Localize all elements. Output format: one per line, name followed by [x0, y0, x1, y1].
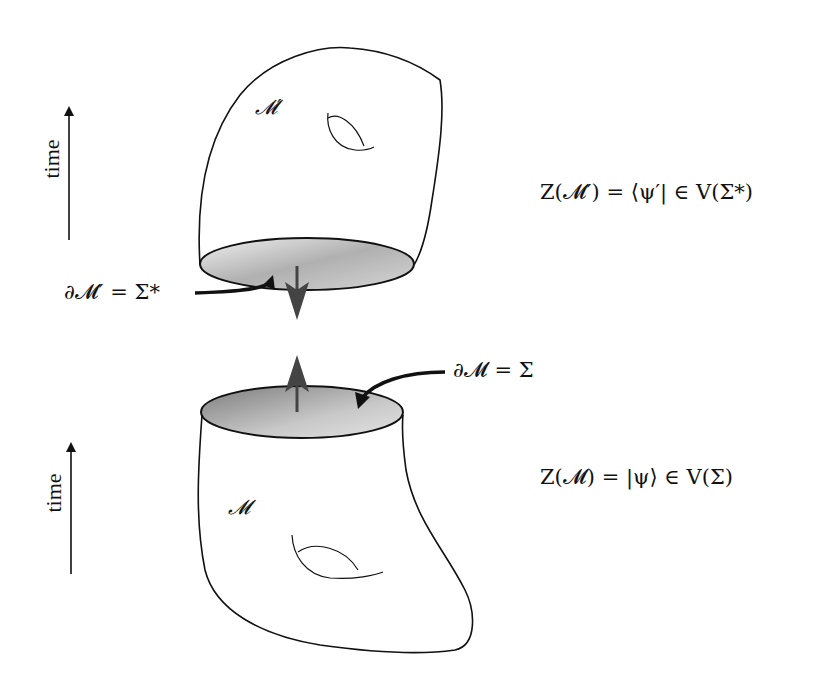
lower-boundary-disk [201, 386, 403, 438]
lower-manifold-label: 𝓜 [228, 495, 250, 519]
lower-manifold-surface [198, 415, 472, 652]
lower-state-equation: Z(𝓜) = |ψ⟩ ∈ V(Σ) [540, 465, 733, 489]
time-label-upper: time [39, 137, 65, 181]
upper-manifold-surface [199, 48, 442, 265]
upper-state-equation: Z(𝓜′) = ⟨ψ′| ∈ V(Σ*) [540, 180, 753, 204]
upper-boundary-disk [200, 238, 414, 290]
upper-boundary-label: ∂𝓜′ = Σ* [64, 280, 160, 304]
upper-manifold-label: 𝓜′ [255, 95, 282, 119]
lower-handle-icon [292, 535, 383, 578]
lower-boundary-label: ∂𝓜 = Σ [453, 358, 534, 382]
upper-manifold [199, 48, 442, 320]
cobordism-diagram: time time 𝓜′ 𝓜 Z(𝓜′) = ⟨ψ′| ∈ V(Σ*) Z(𝓜)… [0, 0, 827, 691]
time-label-lower: time [41, 471, 67, 515]
diagram-canvas [0, 0, 827, 691]
time-axis-upper [64, 106, 74, 240]
upper-handle-icon [328, 113, 374, 150]
time-axis-lower [66, 442, 76, 574]
